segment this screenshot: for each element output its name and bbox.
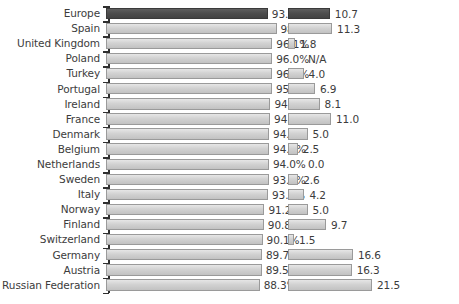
value-bar (288, 264, 352, 275)
percentage-bar (106, 8, 268, 19)
value-label: N/A (308, 52, 326, 66)
percentage-bar (106, 249, 262, 260)
category-label: Sweden (0, 174, 104, 185)
axis-tick (103, 278, 109, 280)
category-label: Switzerland (0, 234, 104, 245)
chart-row: Europe93.3%10.7 (0, 6, 459, 21)
percentage-panel: 98.7% (104, 21, 280, 36)
value-bar (288, 204, 308, 215)
value-panel: 4.0 (286, 66, 404, 81)
percentage-panel: 94.1% (104, 127, 280, 142)
value-bar (288, 174, 298, 185)
value-panel: N/A (286, 51, 404, 66)
percentage-panel: 94.9% (104, 97, 280, 112)
value-panel: 5.0 (286, 127, 404, 142)
axis-tick (103, 233, 109, 235)
chart-row: Denmark94.1%5.0 (0, 127, 459, 142)
category-label: Italy (0, 189, 104, 200)
value-panel: 6.9 (286, 81, 404, 96)
chart-row: Switzerland90.1%1.5 (0, 232, 459, 247)
chart-row: Turkey96.0%4.0 (0, 66, 459, 81)
value-label: 2.5 (303, 142, 319, 156)
percentage-bar (106, 68, 272, 79)
value-bar (288, 23, 332, 34)
value-bar (288, 249, 353, 260)
value-label: 11.0 (336, 112, 359, 126)
value-panel: 10.7 (286, 6, 404, 21)
value-bar (288, 128, 308, 139)
category-label: France (0, 114, 104, 125)
value-bar (288, 143, 298, 154)
chart-row: Ireland94.9%8.1 (0, 97, 459, 112)
percentage-bar (106, 113, 270, 124)
value-panel: 16.6 (286, 248, 404, 263)
value-label: 6.9 (320, 82, 336, 96)
value-label: 1.8 (300, 37, 316, 51)
category-label: Poland (0, 53, 104, 64)
axis-tick (103, 36, 109, 38)
value-panel: 5.0 (286, 202, 404, 217)
category-label: Spain (0, 23, 104, 34)
percentage-bar (106, 159, 269, 170)
chart-row: Portugal95.8%6.9 (0, 81, 459, 96)
category-label: Europe (0, 8, 104, 19)
axis-tick (103, 21, 109, 23)
value-label: 16.3 (357, 263, 380, 277)
axis-tick (103, 82, 109, 84)
value-bar (288, 38, 295, 49)
value-bar (288, 234, 294, 245)
value-bar (288, 113, 331, 124)
percentage-panel: 93.3% (104, 6, 280, 21)
category-label: Finland (0, 219, 104, 230)
percentage-bar (106, 234, 263, 245)
chart-row: Belgium94.1%2.5 (0, 142, 459, 157)
percentage-bar (106, 98, 270, 109)
axis-tick (103, 157, 109, 159)
value-panel: 1.5 (286, 232, 404, 247)
chart-row: Italy93.4%4.2 (0, 187, 459, 202)
category-label: Belgium (0, 144, 104, 155)
value-bar (288, 8, 330, 19)
value-panel: 8.1 (286, 97, 404, 112)
percentage-bar (106, 128, 269, 139)
axis-tick (103, 202, 109, 204)
percentage-bar (106, 279, 260, 290)
value-bar (288, 189, 304, 200)
value-bar (288, 98, 320, 109)
percentage-bar (106, 189, 268, 200)
category-label: Germany (0, 250, 104, 261)
category-label: Netherlands (0, 159, 104, 170)
value-panel: 0.0 (286, 157, 404, 172)
chart-row: Spain98.7%11.3 (0, 21, 459, 36)
chart-row: Netherlands94.0%0.0 (0, 157, 459, 172)
grouped-bar-chart: Europe93.3%10.7Spain98.7%11.3United King… (0, 0, 459, 304)
percentage-bar (106, 264, 262, 275)
value-label: 8.1 (325, 97, 341, 111)
value-bar (288, 68, 304, 79)
value-label: 1.5 (299, 233, 315, 247)
value-label: 10.7 (335, 7, 358, 21)
category-label: Ireland (0, 99, 104, 110)
value-bar (288, 219, 326, 230)
percentage-panel: 96.0% (104, 66, 280, 81)
value-label: 0.0 (308, 157, 324, 171)
value-label: 9.7 (331, 218, 347, 232)
percentage-panel: 93.4% (104, 187, 280, 202)
axis-tick (103, 217, 109, 219)
axis-tick (103, 172, 109, 174)
value-panel: 1.8 (286, 36, 404, 51)
chart-row: United Kingdom96.1%1.8 (0, 36, 459, 51)
percentage-bar (106, 53, 272, 64)
value-panel: 11.0 (286, 112, 404, 127)
value-label: 5.0 (313, 127, 329, 141)
percentage-panel: 90.8% (104, 217, 280, 232)
chart-rows: Europe93.3%10.7Spain98.7%11.3United King… (0, 6, 459, 293)
value-label: 5.0 (313, 203, 329, 217)
percentage-bar (106, 38, 272, 49)
chart-row: Russian Federation88.3%21.5 (0, 278, 459, 293)
percentage-bar (106, 174, 269, 185)
axis-tick (103, 248, 109, 250)
percentage-panel: 96.1% (104, 36, 280, 51)
category-label: Austria (0, 265, 104, 276)
axis-tick (103, 6, 109, 8)
